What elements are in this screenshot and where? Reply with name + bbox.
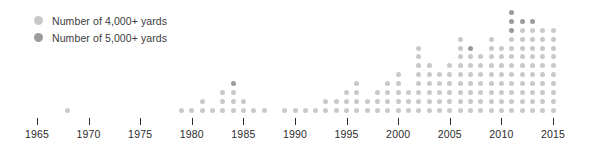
dot-4000 — [489, 37, 494, 42]
axis-tick-label: 1990 — [275, 128, 315, 140]
dot-4000 — [530, 99, 535, 104]
axis-tick-label: 1965 — [17, 128, 57, 140]
dot-4000 — [530, 46, 535, 51]
dot-4000 — [530, 90, 535, 95]
dot-4000 — [406, 90, 411, 95]
dot-4000 — [334, 108, 339, 113]
dot-4000 — [468, 81, 473, 86]
dot-4000 — [520, 46, 525, 51]
dot-4000 — [540, 72, 545, 77]
dot-4000 — [344, 90, 349, 95]
dot-4000 — [458, 81, 463, 86]
dot-4000 — [478, 90, 483, 95]
dot-4000 — [323, 99, 328, 104]
dot-4000 — [447, 63, 452, 68]
dot-4000 — [520, 63, 525, 68]
dot-4000 — [396, 81, 401, 86]
dot-4000 — [416, 63, 421, 68]
dot-4000 — [551, 108, 556, 113]
dot-4000 — [489, 108, 494, 113]
dot-4000 — [540, 54, 545, 59]
dot-4000 — [551, 90, 556, 95]
dot-4000 — [509, 63, 514, 68]
dot-4000 — [200, 108, 205, 113]
dot-4000 — [334, 99, 339, 104]
dot-4000 — [396, 99, 401, 104]
dot-4000 — [509, 46, 514, 51]
dot-5000 — [509, 19, 514, 24]
dot-4000 — [406, 99, 411, 104]
dot-4000 — [520, 90, 525, 95]
dot-4000 — [447, 90, 452, 95]
dot-4000 — [385, 99, 390, 104]
dot-4000 — [416, 90, 421, 95]
dot-4000 — [468, 54, 473, 59]
axis-tick-label: 1975 — [120, 128, 160, 140]
axis-tick — [501, 118, 502, 125]
dot-4000 — [478, 72, 483, 77]
dot-4000 — [530, 54, 535, 59]
dot-4000 — [489, 54, 494, 59]
dot-4000 — [396, 90, 401, 95]
dot-4000 — [427, 81, 432, 86]
dot-4000 — [447, 72, 452, 77]
axis-tick-label: 1970 — [69, 128, 109, 140]
dot-4000 — [427, 72, 432, 77]
dot-4000 — [458, 54, 463, 59]
dot-4000 — [231, 90, 236, 95]
dot-4000 — [551, 72, 556, 77]
dot-4000 — [365, 99, 370, 104]
dot-4000 — [530, 37, 535, 42]
dot-5000 — [530, 19, 535, 24]
dot-4000 — [447, 108, 452, 113]
dot-4000 — [293, 108, 298, 113]
dot-4000 — [282, 108, 287, 113]
axis-tick-label: 1995 — [327, 128, 367, 140]
dot-4000 — [437, 108, 442, 113]
dot-4000 — [489, 81, 494, 86]
dot-4000 — [520, 28, 525, 33]
dot-4000 — [509, 108, 514, 113]
dot-4000 — [478, 99, 483, 104]
axis-tick-label: 2010 — [481, 128, 521, 140]
dot-4000 — [530, 108, 535, 113]
dot-4000 — [509, 37, 514, 42]
dot-4000 — [323, 108, 328, 113]
dot-4000 — [530, 63, 535, 68]
dot-4000 — [303, 108, 308, 113]
dot-4000 — [551, 54, 556, 59]
dot-4000 — [354, 90, 359, 95]
dot-4000 — [416, 54, 421, 59]
dot-4000 — [509, 54, 514, 59]
dot-4000 — [251, 108, 256, 113]
dot-4000 — [396, 108, 401, 113]
dot-4000 — [344, 99, 349, 104]
axis-tick — [37, 118, 38, 125]
axis-tick — [347, 118, 348, 125]
dot-4000 — [427, 108, 432, 113]
dot-5000 — [468, 46, 473, 51]
axis-tick — [89, 118, 90, 125]
dot-4000 — [499, 90, 504, 95]
dot-4000 — [540, 28, 545, 33]
dot-4000 — [427, 99, 432, 104]
dot-4000 — [416, 99, 421, 104]
dot-4000 — [468, 90, 473, 95]
dot-4000 — [499, 108, 504, 113]
axis-tick — [553, 118, 554, 125]
dot-4000 — [241, 108, 246, 113]
axis-tick — [295, 118, 296, 125]
dot-4000 — [509, 90, 514, 95]
axis-tick — [140, 118, 141, 125]
dot-4000 — [551, 99, 556, 104]
dot-4000 — [489, 72, 494, 77]
dot-4000 — [354, 81, 359, 86]
dot-4000 — [416, 81, 421, 86]
axis-tick — [450, 118, 451, 125]
dot-4000 — [520, 108, 525, 113]
dot-4000 — [551, 46, 556, 51]
dot-4000 — [540, 37, 545, 42]
dot-4000 — [468, 63, 473, 68]
dot-4000 — [520, 37, 525, 42]
dot-4000 — [499, 72, 504, 77]
